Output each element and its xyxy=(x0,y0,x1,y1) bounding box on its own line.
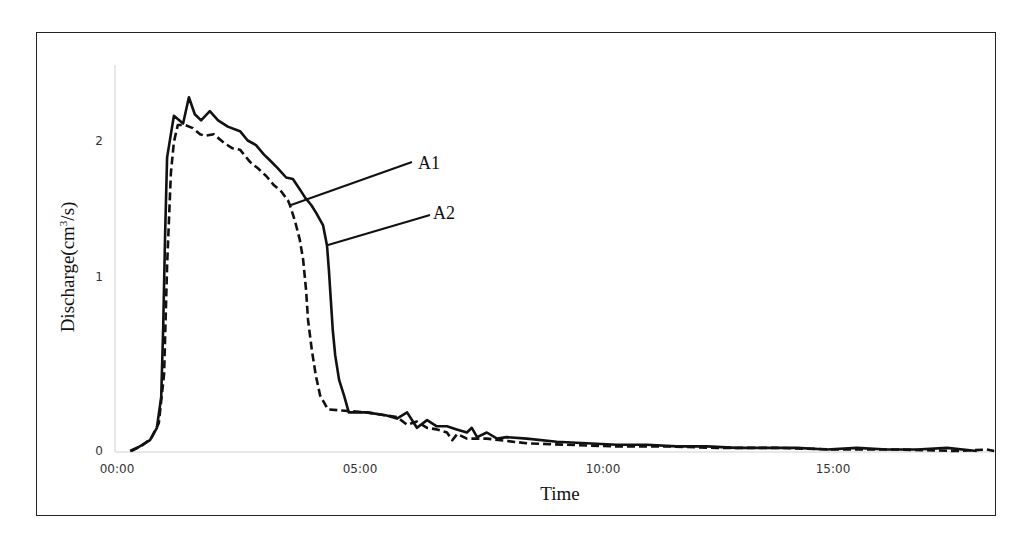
leader-line-a2 xyxy=(328,215,430,245)
x-tick-label: 15:00 xyxy=(816,462,851,476)
series-line-a1 xyxy=(131,125,994,451)
x-tick-label: 10:00 xyxy=(586,462,621,476)
y-tick-label: 1 xyxy=(95,270,103,284)
annotation-label-a1: A1 xyxy=(418,153,440,174)
annotation-leaders xyxy=(291,162,430,245)
axes xyxy=(115,65,995,452)
y-tick-label: 0 xyxy=(95,444,103,458)
series-line-a2 xyxy=(130,97,977,451)
annotation-label-a2: A2 xyxy=(433,203,455,224)
x-axis-title: Time xyxy=(540,483,579,505)
y-tick-label: 2 xyxy=(95,134,103,148)
x-tick-label: 00:00 xyxy=(100,462,135,476)
y-axis-title: Discharge(cm3/s) xyxy=(57,202,79,333)
series-group xyxy=(130,97,994,451)
leader-line-a1 xyxy=(291,162,412,205)
plot-area xyxy=(0,0,1027,544)
x-tick-label: 05:00 xyxy=(343,462,378,476)
